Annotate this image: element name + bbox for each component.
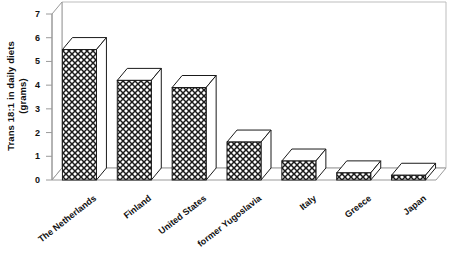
- y-tick-label: 5: [2, 56, 40, 66]
- y-tick-label: 6: [2, 33, 40, 43]
- figure-bar-chart: Trans 18:1 in daily diets (grams) 012345…: [0, 0, 458, 262]
- bar-4: [282, 149, 326, 180]
- y-tick-label: 1: [2, 151, 40, 161]
- bar-1: [117, 68, 161, 180]
- y-tick-label: 7: [2, 9, 40, 19]
- bar-2: [172, 76, 216, 180]
- bar-0: [62, 38, 106, 180]
- y-tick-label: 3: [2, 104, 40, 114]
- bar-3: [227, 130, 271, 180]
- y-axis-tick-labels: 01234567: [0, 0, 40, 262]
- y-tick-label: 4: [2, 80, 40, 90]
- y-tick-label: 2: [2, 128, 40, 138]
- y-tick-label: 0: [2, 175, 40, 185]
